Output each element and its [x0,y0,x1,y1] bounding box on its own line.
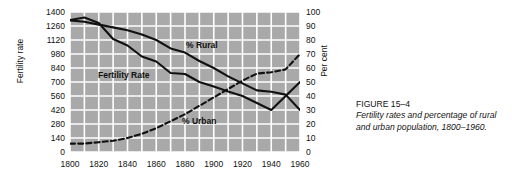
axis-tick-label: 280 [26,120,65,129]
figure-15-4: Fertility rate Per cent 1400126011209808… [0,0,512,183]
axis-tick-label: 1260 [26,22,65,31]
axis-tick-label: 50 [306,78,330,87]
axis-tick-label: 0 [306,148,330,157]
plot-area: % Rural Fertility Rate % Urban [70,12,300,152]
caption-title: FIGURE 15–4 [356,99,508,110]
caption-body: Fertility rates and percentage of rural … [356,110,508,133]
axis-tick-label: 560 [26,92,65,101]
axis-tick-label: 1820 [83,160,115,169]
data-series [70,12,300,152]
axis-tick-label: 1860 [140,160,172,169]
axis-tick-label: 60 [306,64,330,73]
axis-tick-label: 90 [306,22,330,31]
axis-tick-label: 420 [26,106,65,115]
axis-tick-label: 20 [306,120,330,129]
axis-tick-label: 1800 [54,160,86,169]
axis-tick-label: 40 [306,92,330,101]
axis-tick-label: 100 [306,8,330,17]
chart-container: Fertility rate Per cent 1400126011209808… [0,0,345,183]
axis-tick-label: 700 [26,78,65,87]
axis-tick-label: 70 [306,50,330,59]
axis-tick-label: 1900 [198,160,230,169]
axis-tick-label: 140 [26,134,65,143]
y-axis-left-title: Fertility rate [15,25,25,97]
figure-caption: FIGURE 15–4 Fertility rates and percenta… [356,99,508,133]
axis-tick-label: 80 [306,36,330,45]
axis-tick-label: 0 [26,148,65,157]
axis-tick-label: 10 [306,134,330,143]
axis-tick-label: 1940 [255,160,287,169]
axis-tick-label: 1120 [26,36,65,45]
axis-tick-label: 30 [306,106,330,115]
axis-tick-label: 1960 [284,160,316,169]
series-label-rural: % Rural [186,40,218,50]
axis-tick-label: 1880 [169,160,201,169]
axis-tick-label: 980 [26,50,65,59]
axis-tick-label: 1920 [227,160,259,169]
axis-tick-label: 1400 [26,8,65,17]
axis-tick-label: 840 [26,64,65,73]
axis-tick-label: 1840 [112,160,144,169]
series-label-urban: % Urban [182,116,216,126]
series-label-fertility: Fertility Rate [98,70,150,80]
